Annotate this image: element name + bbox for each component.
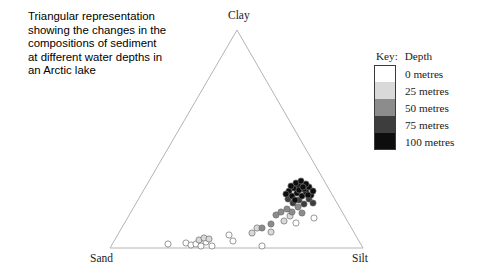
legend-label: 75 metres	[405, 119, 449, 131]
legend-swatch	[374, 99, 396, 116]
data-point	[301, 201, 307, 207]
legend-row: 75 metres	[374, 116, 474, 133]
data-point	[289, 209, 295, 215]
triangle-outline	[110, 30, 363, 248]
legend-label: 0 metres	[405, 68, 443, 80]
data-point	[292, 197, 298, 203]
legend-row: 100 metres	[374, 133, 474, 150]
data-point	[209, 243, 215, 249]
legend-label: 25 metres	[405, 85, 449, 97]
legend-swatch	[374, 82, 396, 99]
data-point	[305, 192, 311, 198]
data-point	[311, 215, 317, 221]
legend-row: 25 metres	[374, 82, 474, 99]
data-points-layer	[165, 178, 317, 249]
legend-label: 100 metres	[405, 136, 454, 148]
data-point	[249, 230, 255, 236]
vertex-label-silt: Silt	[352, 252, 368, 264]
data-point	[278, 209, 284, 215]
series-50-metres	[259, 204, 305, 231]
data-point	[283, 191, 289, 197]
data-point	[259, 243, 265, 249]
legend-header: Key:Depth	[376, 50, 474, 62]
vertex-label-clay: Clay	[228, 9, 250, 21]
data-point	[268, 221, 274, 227]
data-point	[299, 210, 305, 216]
data-point	[230, 238, 236, 244]
legend-entries: 0 metres25 metres50 metres75 metres100 m…	[374, 65, 474, 150]
depth-legend: Key:Depth 0 metres25 metres50 metres75 m…	[374, 50, 474, 150]
data-point	[293, 220, 299, 226]
legend-swatch	[374, 116, 396, 133]
legend-row: 50 metres	[374, 99, 474, 116]
data-point	[310, 200, 316, 206]
series-25-metres	[196, 213, 293, 243]
legend-row: 0 metres	[374, 65, 474, 82]
data-point	[259, 225, 265, 231]
data-point	[300, 184, 306, 190]
data-point	[206, 236, 212, 242]
data-point	[268, 229, 274, 235]
legend-swatch	[374, 65, 396, 82]
data-point	[288, 183, 294, 189]
vertex-label-sand: Sand	[90, 252, 113, 264]
legend-title: Depth	[405, 50, 432, 62]
ternary-diagram-figure: Triangular representation showing the ch…	[0, 0, 477, 280]
legend-label: 50 metres	[405, 102, 449, 114]
data-point	[281, 218, 287, 224]
legend-key-label: Key:	[376, 50, 398, 62]
series-0-metres	[165, 215, 317, 249]
data-point	[165, 241, 171, 247]
legend-swatch	[374, 133, 396, 150]
data-point	[226, 232, 232, 238]
